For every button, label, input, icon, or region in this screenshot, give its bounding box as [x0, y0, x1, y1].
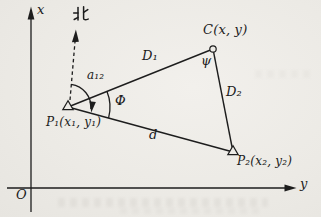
- y-axis-label: y: [300, 177, 308, 191]
- marker-c-circle: [210, 46, 216, 52]
- x-axis-arrowhead: [28, 7, 35, 20]
- scanned-figure: x y O a₁₂ Φ ψ D₁ D₂ d P₁(x₁, y₁) P₂(x₂, …: [0, 0, 321, 217]
- angle-a12-arc: [71, 84, 91, 109]
- edge-d1-label: D₁: [142, 49, 158, 63]
- origin-label: O: [16, 188, 27, 202]
- edge-d2-label: D₂: [226, 85, 242, 99]
- angle-phi-label: Φ: [115, 94, 126, 108]
- north-char-bei: [74, 7, 89, 20]
- edge-d-label: d: [149, 128, 158, 142]
- point-p2-label: P₂(x₂, y₂): [237, 154, 292, 168]
- north-dashed-line: [70, 36, 76, 100]
- point-c-label: C(x, y): [203, 23, 247, 37]
- angle-a12-label: a₁₂: [87, 68, 104, 82]
- angle-phi-arc: [107, 91, 110, 118]
- angle-psi-label: ψ: [201, 54, 211, 68]
- x-axis-label: x: [37, 3, 45, 17]
- y-axis-arrowhead: [285, 185, 297, 192]
- edge-d2-line: [213, 49, 233, 152]
- point-p1-label: P₁(x₁, y₁): [46, 115, 101, 129]
- north-arrowhead: [72, 30, 79, 43]
- diagram-canvas: [0, 0, 321, 217]
- angle-a12-arrowhead: [89, 101, 96, 112]
